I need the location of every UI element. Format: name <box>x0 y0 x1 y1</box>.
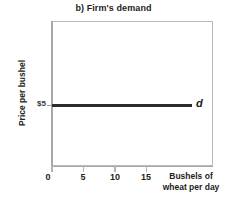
figure-firms-demand: b) Firm's demand Price per bushel $5 0 5… <box>0 0 227 205</box>
x-axis-title-line-1: Bushels of <box>155 171 227 182</box>
demand-curve-label: d <box>196 97 203 109</box>
x-axis-tick-label: 0 <box>36 172 60 182</box>
x-axis-title: Bushels of wheat per day <box>155 171 227 193</box>
plot-area <box>51 21 213 166</box>
x-axis-tick-label: 10 <box>103 172 127 182</box>
y-axis-tick-label: $5 <box>24 99 46 108</box>
chart-title: b) Firm's demand <box>0 3 227 13</box>
x-axis-tick-label: 5 <box>71 172 95 182</box>
x-axis-line <box>51 166 213 168</box>
y-axis-line <box>51 21 53 167</box>
x-axis-title-line-2: wheat per day <box>155 182 227 193</box>
demand-curve <box>52 104 192 107</box>
y-axis-title: Price per bushel <box>17 38 27 148</box>
